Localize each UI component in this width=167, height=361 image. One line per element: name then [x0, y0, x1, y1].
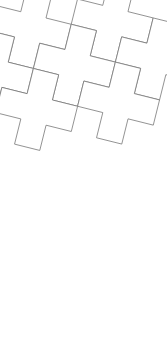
tessellation-figure: [0, 0, 167, 361]
tessellation-canvas: [0, 0, 167, 361]
